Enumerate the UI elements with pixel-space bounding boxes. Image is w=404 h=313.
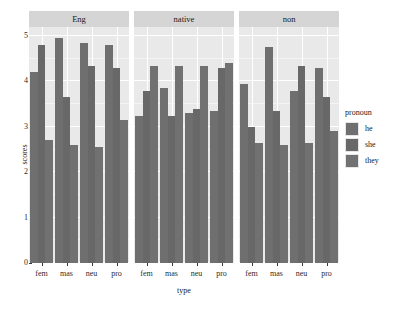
x-axis-panel-non: femmasneupro: [239, 263, 339, 285]
facet-strip-label: Eng: [29, 11, 129, 27]
facet-strip-label: native: [134, 11, 234, 27]
bar-he[interactable]: [135, 116, 143, 264]
bar-group-mas: [159, 27, 184, 263]
x-tick-text: mas: [165, 269, 178, 278]
bar-he[interactable]: [55, 38, 63, 263]
bar-group-pro: [314, 27, 339, 263]
y-tick-label: 1: [10, 214, 28, 222]
bar-she[interactable]: [248, 127, 256, 263]
bar-layer: [239, 27, 339, 263]
x-tick-text: pro: [321, 269, 332, 278]
legend-item-she[interactable]: she: [345, 137, 403, 152]
bar-they[interactable]: [225, 63, 233, 263]
facet-panel-eng: Eng: [29, 11, 129, 263]
bar-they[interactable]: [175, 66, 183, 263]
legend-title: pronoun: [345, 108, 403, 117]
legend-label-he: he: [365, 124, 373, 133]
x-axis: femmasneuprofemmasneuprofemmasneupro: [29, 263, 339, 285]
plot-area: [134, 27, 234, 263]
bar-he[interactable]: [185, 113, 193, 263]
x-tick-label: fem: [134, 263, 159, 285]
bar-she[interactable]: [88, 66, 96, 263]
x-tick-label: mas: [264, 263, 289, 285]
x-tick-mark: [147, 263, 148, 266]
bar-group-fem: [134, 27, 159, 263]
facet-panel-native: native: [134, 11, 234, 263]
x-tick-mark: [302, 263, 303, 266]
x-tick-mark: [172, 263, 173, 266]
bar-he[interactable]: [210, 111, 218, 263]
bar-they[interactable]: [255, 143, 263, 263]
bar-she[interactable]: [143, 91, 151, 263]
bar-he[interactable]: [315, 68, 323, 263]
x-tick-label: fem: [239, 263, 264, 285]
bar-group-pro: [209, 27, 234, 263]
x-tick-text: mas: [60, 269, 73, 278]
bar-group-neu: [184, 27, 209, 263]
y-tick-label: 5: [10, 32, 28, 40]
bar-he[interactable]: [240, 84, 248, 263]
bar-he[interactable]: [80, 43, 88, 263]
y-axis-title: scores: [20, 125, 29, 185]
x-tick-label: neu: [289, 263, 314, 285]
x-tick-label: mas: [159, 263, 184, 285]
x-tick-mark: [277, 263, 278, 266]
bar-layer: [134, 27, 234, 263]
bar-she[interactable]: [323, 97, 331, 263]
chart-root: 543210 scores Engnativenon femmasneuprof…: [0, 0, 404, 313]
bar-they[interactable]: [70, 145, 78, 263]
x-tick-label: pro: [314, 263, 339, 285]
facet-panels: Engnativenon: [29, 11, 339, 263]
x-tick-text: neu: [86, 269, 98, 278]
bar-layer: [29, 27, 129, 263]
bar-he[interactable]: [30, 72, 38, 263]
x-tick-mark: [252, 263, 253, 266]
bar-she[interactable]: [193, 109, 201, 263]
bar-he[interactable]: [160, 88, 168, 263]
x-tick-text: fem: [140, 269, 152, 278]
x-tick-text: pro: [216, 269, 227, 278]
bar-she[interactable]: [273, 111, 281, 263]
bar-she[interactable]: [168, 116, 176, 264]
bar-group-pro: [104, 27, 129, 263]
x-tick-text: mas: [270, 269, 283, 278]
legend-item-they[interactable]: they: [345, 153, 403, 168]
bar-they[interactable]: [95, 147, 103, 263]
bar-she[interactable]: [298, 66, 306, 263]
bar-group-fem: [29, 27, 54, 263]
x-tick-text: neu: [191, 269, 203, 278]
x-tick-mark: [117, 263, 118, 266]
x-tick-mark: [327, 263, 328, 266]
bar-they[interactable]: [280, 145, 288, 263]
legend-item-he[interactable]: he: [345, 121, 403, 136]
legend-swatch-they: [345, 154, 359, 168]
bar-group-neu: [79, 27, 104, 263]
plot-area: [239, 27, 339, 263]
bar-they[interactable]: [150, 66, 158, 263]
bar-he[interactable]: [290, 91, 298, 263]
bar-he[interactable]: [105, 45, 113, 263]
x-tick-text: fem: [245, 269, 257, 278]
bar-they[interactable]: [120, 120, 128, 263]
plot-area: [29, 27, 129, 263]
bar-she[interactable]: [63, 97, 71, 263]
bar-she[interactable]: [218, 68, 226, 263]
x-tick-mark: [92, 263, 93, 266]
bar-he[interactable]: [265, 47, 273, 263]
x-tick-mark: [42, 263, 43, 266]
x-tick-mark: [222, 263, 223, 266]
x-tick-label: neu: [79, 263, 104, 285]
bar-they[interactable]: [45, 140, 53, 263]
bar-she[interactable]: [38, 45, 46, 263]
legend-swatch-she: [345, 138, 359, 152]
bar-she[interactable]: [113, 68, 121, 263]
bar-they[interactable]: [330, 131, 338, 263]
y-tick-label: 0: [10, 259, 28, 267]
x-tick-label: fem: [29, 263, 54, 285]
legend-label-she: she: [365, 140, 376, 149]
facet-panel-non: non: [239, 11, 339, 263]
x-tick-label: neu: [184, 263, 209, 285]
bar-they[interactable]: [200, 66, 208, 263]
bar-they[interactable]: [305, 143, 313, 263]
x-tick-label: mas: [54, 263, 79, 285]
